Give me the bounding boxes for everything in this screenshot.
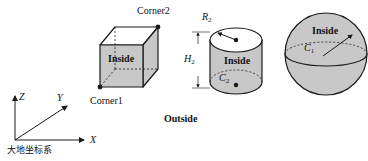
z-axis-label: Z bbox=[19, 92, 25, 102]
coordinate-system-caption: 大地坐标系 bbox=[7, 146, 52, 155]
c2-point bbox=[234, 83, 237, 86]
corner2-point bbox=[156, 25, 160, 29]
corner2-label: Corner2 bbox=[137, 6, 170, 16]
diagram-figure: Corner2 Inside Corner1 R2 H2 Inside C2 I… bbox=[0, 0, 368, 161]
radius-label: R2 bbox=[202, 12, 212, 24]
corner1-point bbox=[98, 85, 102, 89]
height-label: H2 bbox=[184, 54, 195, 66]
corner1-label: Corner1 bbox=[90, 96, 123, 106]
cube-inside-label: Inside bbox=[108, 54, 134, 64]
c1-label: C1 bbox=[304, 43, 314, 55]
outside-label: Outside bbox=[164, 114, 197, 124]
y-axis-label: Y bbox=[57, 93, 63, 103]
sphere-inside-label: Inside bbox=[312, 26, 338, 36]
cylinder-inside-label: Inside bbox=[224, 56, 250, 66]
axes-icon bbox=[15, 96, 84, 140]
x-axis-label: X bbox=[90, 135, 96, 145]
c2-label: C2 bbox=[219, 73, 229, 85]
